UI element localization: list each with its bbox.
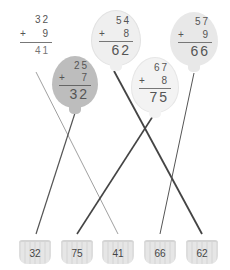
plus-sign: +: [178, 29, 184, 40]
answer: 62: [111, 42, 131, 58]
addition-problem: 54 + 8 62: [99, 13, 131, 63]
basket-1: 32: [19, 240, 51, 264]
basket-label: 41: [102, 248, 134, 259]
basket-label: 32: [19, 248, 51, 259]
addend-top: 32: [35, 14, 50, 25]
balloon-problem-2: 25 + 7 32: [52, 56, 98, 108]
answer: 75: [149, 89, 169, 105]
balloon-problem-4: 67 + 8 75: [131, 57, 179, 113]
addend-top: 25: [74, 60, 89, 71]
addition-problem: 57 + 9 66: [178, 14, 210, 64]
answer: 32: [69, 86, 89, 102]
addend-bottom: 9: [202, 29, 210, 40]
basket-2: 75: [61, 240, 93, 264]
sum-line: [20, 42, 52, 43]
basket-label: 62: [186, 248, 218, 259]
basket-label: 66: [144, 248, 176, 259]
plus-sign: +: [20, 28, 26, 39]
answer: 41: [35, 45, 50, 56]
addition-problem: 25 + 7 32: [59, 58, 89, 106]
addend-bottom: 8: [123, 28, 131, 39]
answer: 66: [190, 43, 210, 59]
addend-bottom: 9: [42, 28, 50, 39]
basket-3: 41: [102, 240, 134, 264]
plus-sign: +: [59, 72, 65, 83]
balloon-problem-5: 57 + 9 66: [170, 12, 218, 66]
addend-bottom: 7: [81, 72, 89, 83]
string-32: [36, 113, 75, 234]
plus-sign: +: [139, 75, 145, 86]
addend-bottom: 8: [161, 75, 169, 86]
plus-sign: +: [99, 28, 105, 39]
basket-label: 75: [61, 248, 93, 259]
addition-problem: 32 + 9 41: [20, 12, 50, 62]
addend-top: 57: [195, 16, 210, 27]
basket-5: 62: [186, 240, 218, 264]
addend-top: 67: [154, 62, 169, 73]
addend-top: 54: [116, 15, 131, 26]
balloon-problem-1: 32 + 9 41: [12, 8, 60, 64]
basket-4: 66: [144, 240, 176, 264]
balloon-problem-3: 54 + 8 62: [91, 10, 141, 66]
addition-problem: 67 + 8 75: [139, 60, 169, 110]
